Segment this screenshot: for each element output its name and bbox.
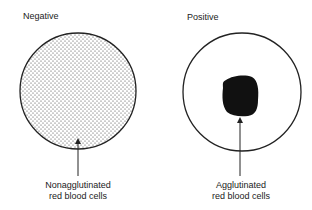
positive-caption-line2: red blood cells: [186, 191, 296, 202]
negative-caption-line1: Nonagglutinated: [23, 180, 133, 191]
agglutinated-clump: [222, 76, 258, 117]
negative-caption-line2: red blood cells: [23, 191, 133, 202]
negative-well: [20, 33, 136, 149]
agglutination-diagram: [0, 0, 312, 210]
positive-caption-line1: Agglutinated: [186, 180, 296, 191]
negative-caption: Nonagglutinated red blood cells: [23, 180, 133, 202]
positive-caption: Agglutinated red blood cells: [186, 180, 296, 202]
